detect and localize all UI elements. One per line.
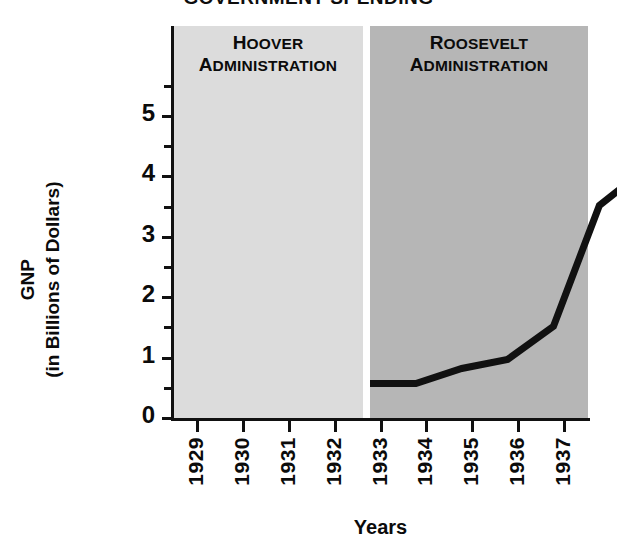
x-tick-mark xyxy=(196,421,199,432)
y-tick-major xyxy=(162,175,173,178)
y-tick-label: 3 xyxy=(127,222,155,246)
y-tick-label: 1 xyxy=(127,343,155,367)
x-tick-mark xyxy=(563,421,566,432)
gnp-polyline xyxy=(370,124,617,384)
plot-area: HOOVER ADMINISTRATION ROOSEVELT ADMINIST… xyxy=(173,26,588,418)
panel-hoover-label: HOOVER ADMINISTRATION xyxy=(173,32,363,77)
y-tick-label: 4 xyxy=(127,161,155,185)
chart-figure: GOVERNMENT SPENDING HOOVER ADMINISTRATIO… xyxy=(0,0,617,559)
x-tick-mark xyxy=(471,421,474,432)
y-tick-label-group: 012345 xyxy=(115,0,155,559)
y-tick-major xyxy=(162,417,173,420)
y-tick-label: 0 xyxy=(127,403,155,427)
panel-hoover-administration: HOOVER ADMINISTRATION xyxy=(173,26,363,418)
x-axis-title: Years xyxy=(173,516,588,539)
y-tick-major xyxy=(162,296,173,299)
x-tick-mark xyxy=(425,421,428,432)
y-tick-major xyxy=(162,115,173,118)
x-tick-label: 1937 xyxy=(551,437,577,486)
y-tick-major xyxy=(162,236,173,239)
y-tick-minor xyxy=(164,326,173,329)
x-tick-mark xyxy=(288,421,291,432)
y-tick-label: 2 xyxy=(127,282,155,306)
x-tick-mark xyxy=(517,421,520,432)
x-tick-label: 1930 xyxy=(230,437,256,486)
x-tick-mark xyxy=(334,421,337,432)
x-tick-label: 1934 xyxy=(413,437,439,486)
chart-title: GOVERNMENT SPENDING xyxy=(0,0,617,9)
x-tick-label: 1936 xyxy=(505,437,531,486)
x-tick-label: 1931 xyxy=(276,437,302,486)
y-tick-major xyxy=(162,357,173,360)
x-tick-label: 1932 xyxy=(322,437,348,486)
x-tick-mark xyxy=(380,421,383,432)
y-tick-minor xyxy=(164,206,173,209)
panel-hoover-head: HOOVER xyxy=(173,32,363,54)
panel-hoover-sub: ADMINISTRATION xyxy=(173,54,363,76)
y-tick-minor xyxy=(164,85,173,88)
y-tick-label: 5 xyxy=(127,101,155,125)
x-tick-label: 1929 xyxy=(184,437,210,486)
y-axis-title-line2: (in Billions of Dollars) xyxy=(41,165,66,395)
y-tick-minor xyxy=(164,266,173,269)
y-tick-minor xyxy=(164,387,173,390)
y-tick-minor xyxy=(164,145,173,148)
x-tick-label: 1935 xyxy=(459,437,485,486)
y-axis-title-line1: GNP xyxy=(16,165,41,395)
gnp-line-series xyxy=(346,52,617,444)
x-tick-label: 1933 xyxy=(368,437,394,486)
y-axis-title: GNP (in Billions of Dollars) xyxy=(16,165,65,395)
x-tick-mark xyxy=(242,421,245,432)
